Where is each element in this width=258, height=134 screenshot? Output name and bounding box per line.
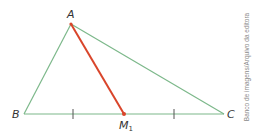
point-a	[69, 22, 72, 25]
label-m1-main: M	[119, 119, 129, 132]
label-a: A	[66, 8, 75, 21]
point-m1	[122, 112, 126, 116]
label-b: B	[12, 108, 20, 121]
label-c: C	[227, 108, 235, 121]
side-ac	[71, 24, 224, 114]
side-ab	[24, 24, 71, 114]
median-am1	[71, 24, 124, 114]
label-m1-subscript: 1	[129, 125, 133, 133]
label-m1: M1	[119, 119, 133, 133]
image-credit: Banco de imagens/Arquivo da editora	[243, 13, 250, 121]
triangle-diagram: A B C M1	[0, 0, 258, 134]
